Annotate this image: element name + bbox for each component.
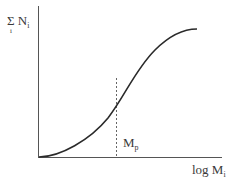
sigma-symbol: Σ — [7, 13, 15, 28]
mp-label-main: M — [123, 135, 135, 150]
y-axis-label: Σi Ni — [7, 14, 29, 30]
y-label-subscript: i — [27, 21, 29, 30]
x-axis-label: log Mi — [192, 163, 226, 179]
chart-canvas — [0, 0, 234, 181]
cumulative-curve — [39, 29, 197, 157]
x-label-main: log M — [192, 162, 223, 177]
sigma-subscript: i — [10, 28, 12, 35]
x-label-subscript: i — [223, 170, 225, 179]
mp-label: Mp — [123, 136, 139, 152]
y-label-main: N — [18, 13, 27, 28]
mp-label-subscript: p — [135, 143, 139, 152]
